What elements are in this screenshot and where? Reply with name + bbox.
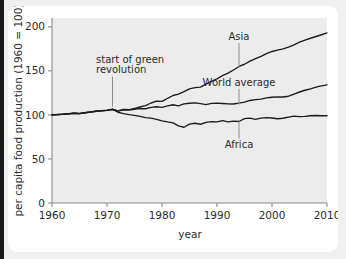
x-tick-label: 1980 [149, 209, 176, 221]
figure-card: 050100150200 196019701980199020002010 As… [8, 6, 338, 252]
series-label-africa: Africa [225, 139, 254, 150]
x-tick-label: 1960 [39, 209, 66, 221]
left-edge-rail [0, 0, 4, 259]
y-tick-label: 100 [25, 109, 45, 121]
y-tick-group: 050100150200 [25, 20, 52, 208]
series-label-world-average: World average [203, 77, 276, 88]
x-tick-label: 2000 [259, 209, 286, 221]
x-tick-label: 2010 [314, 209, 338, 221]
x-axis-title: year [178, 228, 202, 240]
plot-background [52, 18, 327, 203]
x-tick-label: 1970 [94, 209, 121, 221]
y-tick-label: 150 [25, 64, 45, 76]
x-tick-group: 196019701980199020002010 [39, 203, 338, 221]
y-axis-title: per capita food production (1960 = 100) [12, 6, 24, 217]
x-tick-label: 1990 [204, 209, 231, 221]
y-tick-label: 200 [25, 20, 45, 32]
y-tick-label: 0 [38, 197, 45, 209]
series-label-asia: Asia [229, 31, 250, 42]
annotation-text-line2: revolution [96, 64, 146, 75]
chart-figure: 050100150200 196019701980199020002010 As… [8, 6, 338, 252]
y-tick-label: 50 [32, 153, 45, 165]
line-chart-svg: 050100150200 196019701980199020002010 As… [8, 6, 338, 252]
